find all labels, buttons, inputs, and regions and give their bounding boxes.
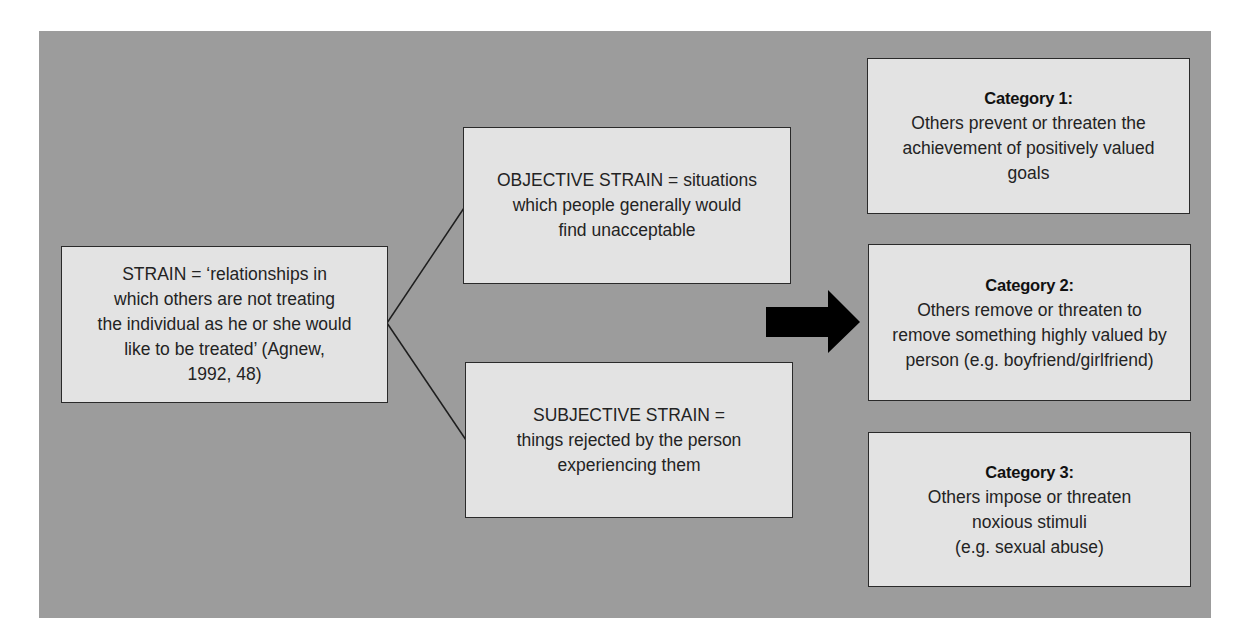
subjective-text-line: experiencing them <box>558 453 701 478</box>
category-text-line: person (e.g. boyfriend/girlfriend) <box>905 348 1153 373</box>
strain-text-line: like to be treated’ (Agnew, <box>124 337 325 362</box>
objective-text-line: find unacceptable <box>558 218 695 243</box>
strain-text-line: 1992, 48) <box>188 362 262 387</box>
strain-text-line: the individual as he or she would <box>98 312 352 337</box>
category-2-box: Category 2: Others remove or threaten to… <box>868 244 1191 401</box>
category-title: Category 1: <box>984 86 1073 111</box>
subjective-strain-box: SUBJECTIVE STRAIN = things rejected by t… <box>465 362 793 518</box>
category-text-line: remove something highly valued by <box>892 323 1166 348</box>
category-text-line: goals <box>1008 161 1050 186</box>
category-3-box: Category 3: Others impose or threaten no… <box>868 432 1191 587</box>
category-text-line: Others prevent or threaten the <box>911 111 1145 136</box>
right-arrow-icon <box>766 290 860 353</box>
subjective-text-line: SUBJECTIVE STRAIN = <box>533 403 725 428</box>
objective-strain-box: OBJECTIVE STRAIN = situations which peop… <box>463 127 791 284</box>
category-title: Category 3: <box>985 460 1074 485</box>
category-title: Category 2: <box>985 273 1074 298</box>
category-1-box: Category 1: Others prevent or threaten t… <box>867 58 1190 214</box>
objective-text-line: OBJECTIVE STRAIN = situations <box>497 168 757 193</box>
strain-text-line: STRAIN = ‘relationships in <box>122 262 327 287</box>
category-text-line: Others impose or threaten <box>928 485 1131 510</box>
category-text-line: noxious stimuli <box>972 510 1087 535</box>
connector-line-objective <box>387 208 464 323</box>
category-text-line: (e.g. sexual abuse) <box>955 535 1104 560</box>
subjective-text-line: things rejected by the person <box>517 428 742 453</box>
strain-text-line: which others are not treating <box>114 287 335 312</box>
connector-line-subjective <box>387 323 466 440</box>
objective-text-line: which people generally would <box>513 193 742 218</box>
category-text-line: Others remove or threaten to <box>917 298 1142 323</box>
category-text-line: achievement of positively valued <box>903 136 1155 161</box>
strain-definition-box: STRAIN = ‘relationships in which others … <box>61 246 388 403</box>
